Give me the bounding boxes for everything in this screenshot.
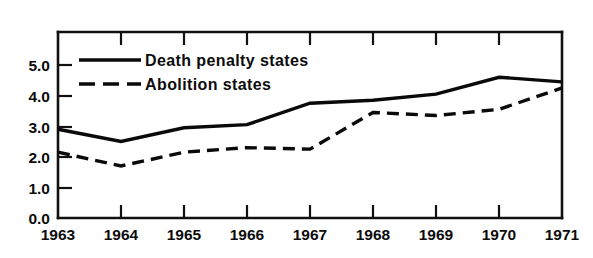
x-axis-label-1969: 1969 — [419, 226, 454, 243]
y-axis-label-2: 2.0 — [28, 149, 50, 166]
x-axis-label-1963: 1963 — [41, 226, 76, 243]
x-axis-label-1971: 1971 — [545, 226, 580, 243]
legend-label-death-penalty-states: Death penalty states — [145, 52, 309, 69]
y-axis-label-0: 0.0 — [28, 210, 50, 227]
x-axis-label-1966: 1966 — [230, 226, 265, 243]
y-axis-label-3: 3.0 — [28, 119, 50, 136]
y-axis-labels: 5.0 4.0 3.0 2.0 1.0 0.0 — [28, 57, 50, 227]
chart-legend: Death penalty states Abolition states — [79, 52, 309, 93]
x-axis-label-1970: 1970 — [482, 226, 516, 243]
x-axis-labels: 1963 1964 1965 1966 1967 1968 1969 1970 … — [41, 226, 580, 243]
y-axis-label-5: 5.0 — [28, 57, 50, 74]
x-axis-label-1964: 1964 — [104, 226, 139, 243]
y-axis-label-4: 4.0 — [28, 88, 50, 105]
chart-container: 5.0 4.0 3.0 2.0 1.0 0.0 — [0, 0, 593, 258]
x-axis-ticks-bottom — [121, 205, 499, 218]
y-axis-label-1: 1.0 — [28, 180, 50, 197]
x-axis-ticks-top — [121, 32, 499, 45]
legend-label-abolition-states: Abolition states — [145, 76, 271, 93]
line-chart: 5.0 4.0 3.0 2.0 1.0 0.0 — [0, 0, 593, 258]
series-abolition-states — [58, 88, 562, 166]
x-axis-label-1968: 1968 — [356, 226, 391, 243]
x-axis-label-1965: 1965 — [167, 226, 202, 243]
data-series — [58, 77, 562, 166]
y-axis-ticks — [58, 65, 72, 188]
x-axis-label-1967: 1967 — [293, 226, 327, 243]
